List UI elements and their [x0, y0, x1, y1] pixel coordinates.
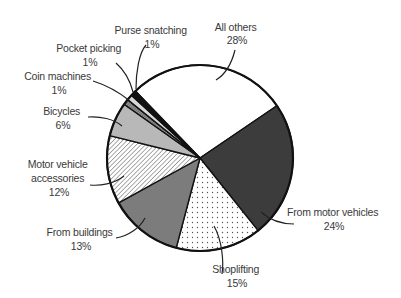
label-coin-machines: Coin machines 1%	[24, 70, 94, 96]
pie-chart: All others 28% From motor vehicles 24% S…	[0, 0, 401, 298]
label-pocket-picking: Pocket picking 1%	[56, 42, 124, 68]
label-all-others: All others 28%	[215, 21, 260, 46]
label-from-motor-vehicles: From motor vehicles 24%	[287, 206, 381, 232]
label-motor-vehicle-accessories: Motor vehicle accessories 12%	[28, 158, 91, 198]
label-from-buildings: From buildings 13%	[47, 226, 116, 252]
leader-pocket-picking	[116, 63, 133, 92]
label-bicycles: Bicycles 6%	[43, 105, 83, 131]
label-shoplifting: Shoplifting 15%	[212, 263, 262, 289]
label-purse-snatching: Purse snatching 1%	[114, 24, 189, 50]
leader-coin-machines	[93, 81, 130, 101]
